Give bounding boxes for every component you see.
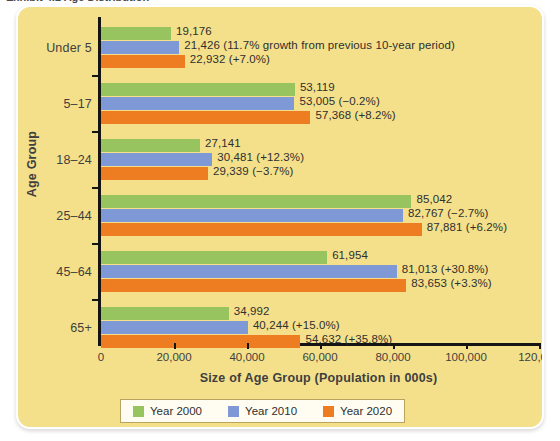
- figure-title-text: Exhibit 4.2 Age Distribution: [6, 0, 149, 3]
- bar-value-label: 82,767 (−2.7%): [408, 207, 488, 219]
- bar-value-label: 19,176: [176, 25, 212, 37]
- chart-legend: Year 2000Year 2010Year 2020: [120, 399, 405, 423]
- x-axis-tick-label: 100,000: [426, 351, 506, 363]
- bar[interactable]: [101, 321, 248, 334]
- legend-label: Year 2020: [340, 405, 392, 417]
- bar[interactable]: [101, 335, 300, 348]
- bar[interactable]: [101, 27, 171, 40]
- bar-value-label: 81,013 (+30.8%): [402, 263, 489, 275]
- bar[interactable]: [101, 41, 179, 54]
- category-label: 45–64: [18, 265, 92, 279]
- bar-value-label: 83,653 (+3.3%): [411, 277, 491, 289]
- x-axis-label: Size of Age Group (Population in 000s): [98, 371, 539, 385]
- x-axis-tick: [393, 343, 395, 349]
- bar-value-label: 57,368 (+8.2%): [315, 109, 395, 121]
- bar[interactable]: [101, 251, 327, 264]
- bar-value-label: 29,339 (−3.7%): [213, 165, 293, 177]
- bar-value-label: 22,932 (+7.0%): [190, 53, 270, 65]
- y-axis-tick: [92, 243, 99, 245]
- y-axis-tick: [92, 131, 99, 133]
- bar[interactable]: [101, 307, 229, 320]
- x-axis-tick: [247, 343, 249, 349]
- legend-item[interactable]: Year 2020: [323, 405, 392, 417]
- bar-value-label: 53,005 (−0.2%): [299, 95, 379, 107]
- legend-label: Year 2000: [150, 405, 202, 417]
- category-label: Under 5: [18, 41, 92, 55]
- bar[interactable]: [101, 139, 200, 152]
- category-label: 5–17: [18, 97, 92, 111]
- bar-value-label: 21,426 (11.7% growth from previous 10-ye…: [184, 39, 455, 51]
- x-axis-tick-label: 80,000: [353, 351, 433, 363]
- legend-color-swatch: [228, 406, 239, 417]
- bar-value-label: 27,141: [205, 137, 241, 149]
- bar[interactable]: [101, 265, 397, 278]
- x-axis-tick: [320, 343, 322, 349]
- bar-chart: Age Group Under 519,17621,426 (11.7% gro…: [18, 7, 542, 427]
- bar-value-label: 34,992: [234, 305, 270, 317]
- y-axis-tick: [92, 299, 99, 301]
- bar[interactable]: [101, 195, 411, 208]
- bar-value-label: 30,481 (+12.3%): [217, 151, 304, 163]
- y-axis-tick: [92, 75, 99, 77]
- x-axis-tick: [466, 343, 468, 349]
- x-axis-tick-label: 0: [61, 351, 141, 363]
- bar[interactable]: [101, 209, 403, 222]
- bar[interactable]: [101, 279, 406, 292]
- x-axis-tick: [174, 343, 176, 349]
- x-axis-tick: [539, 343, 541, 349]
- chart-panel: Age Group Under 519,17621,426 (11.7% gro…: [16, 5, 544, 429]
- bar[interactable]: [101, 111, 310, 124]
- bar[interactable]: [101, 153, 212, 166]
- category-label: 65+: [18, 321, 92, 335]
- bar-value-label: 53,119: [300, 81, 335, 93]
- bar[interactable]: [101, 55, 185, 68]
- legend-item[interactable]: Year 2000: [133, 405, 202, 417]
- legend-color-swatch: [323, 406, 334, 417]
- bar[interactable]: [101, 223, 422, 236]
- bar-value-label: 54,632 (+35.8%): [305, 333, 392, 345]
- x-axis-tick-label: 40,000: [207, 351, 287, 363]
- x-axis-tick-label: 120,000: [499, 351, 544, 363]
- category-label: 25–44: [18, 209, 92, 223]
- x-axis-tick-label: 20,000: [134, 351, 214, 363]
- legend-item[interactable]: Year 2010: [228, 405, 297, 417]
- legend-label: Year 2010: [245, 405, 297, 417]
- bar-value-label: 87,881 (+6.2%): [427, 221, 507, 233]
- bar[interactable]: [101, 167, 208, 180]
- y-axis-tick: [92, 187, 99, 189]
- x-axis-tick-label: 60,000: [280, 351, 360, 363]
- bar-value-label: 61,954: [332, 249, 368, 261]
- bar[interactable]: [101, 97, 294, 110]
- legend-color-swatch: [133, 406, 144, 417]
- bar-value-label: 40,244 (+15.0%): [253, 319, 340, 331]
- bar-value-label: 85,042: [416, 193, 452, 205]
- category-label: 18–24: [18, 153, 92, 167]
- bar[interactable]: [101, 83, 295, 96]
